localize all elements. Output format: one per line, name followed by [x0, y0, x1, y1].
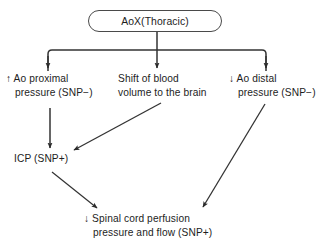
node-ao-proximal-pressure-line1: ↑ Ao proximal [6, 72, 93, 86]
node-aox-thoracic: AoX(Thoracic) [88, 10, 222, 32]
node-ao-proximal-pressure-line2: pressure (SNP−) [6, 86, 93, 100]
node-ao-distal-pressure-line1: ↓ Ao distal [229, 72, 316, 86]
node-ao-distal-pressure: ↓ Ao distal pressure (SNP−) [229, 72, 316, 100]
flowchart-diagram: AoX(Thoracic) ↑ Ao proximal pressure (SN… [0, 0, 325, 249]
node-ao-distal-pressure-line2: pressure (SNP−) [229, 86, 316, 100]
node-spinal-cord-perfusion-line1: ↓ Spinal cord perfusion [84, 212, 212, 226]
edge-distal-to-spinal [203, 104, 265, 207]
edge-icp-to-spinal [52, 172, 97, 208]
node-shift-of-blood-volume-line2: volume to the brain [118, 86, 207, 100]
node-spinal-cord-perfusion-line2: pressure and flow (SNP+) [84, 226, 212, 240]
node-ao-proximal-pressure: ↑ Ao proximal pressure (SNP−) [6, 72, 93, 100]
node-icp-line1: ICP (SNP+) [14, 152, 68, 166]
node-shift-of-blood-volume-line1: Shift of blood [118, 72, 207, 86]
node-spinal-cord-perfusion: ↓ Spinal cord perfusion pressure and flo… [84, 212, 212, 240]
node-icp: ICP (SNP+) [14, 152, 68, 166]
edge-shift-to-icp [74, 103, 161, 150]
node-aox-thoracic-label: AoX(Thoracic) [89, 11, 221, 31]
node-shift-of-blood-volume: Shift of blood volume to the brain [118, 72, 207, 100]
